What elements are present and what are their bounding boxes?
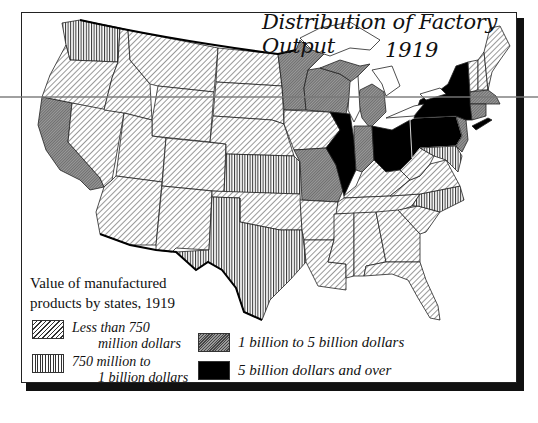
state-arkansas (300, 200, 338, 240)
scan-artifact-line (0, 96, 538, 98)
diagonal-hatch-swatch-icon (32, 320, 64, 339)
state-michigan (358, 84, 386, 128)
state-florida (364, 262, 440, 320)
state-connecticut (470, 104, 486, 120)
legend-label: 1 billion to 5 billion dollars (238, 334, 404, 350)
state-arizona (96, 176, 162, 245)
legend-label: 750 million to 1 billion dollars (72, 354, 188, 386)
state-vermont (468, 60, 478, 92)
legend-item-750m-to-1b: 750 million to 1 billion dollars (32, 354, 188, 386)
legend-heading-line1: Value of manufactured (30, 273, 175, 293)
legend-item-over-5b: 5 billion dollars and over (198, 361, 391, 380)
legend-label: 5 billion dollars and over (238, 362, 391, 378)
legend-label: Less than 750 million dollars (72, 320, 181, 352)
legend-item-under-750m: Less than 750 million dollars (32, 320, 181, 352)
legend-item-1b-to-5b: 1 billion to 5 billion dollars (198, 333, 404, 352)
state-colorado (162, 138, 226, 192)
solid-black-swatch-icon (198, 361, 230, 380)
vertical-hatch-swatch-icon (32, 354, 64, 373)
legend-heading-line2: products by states, 1919 (30, 293, 175, 313)
state-wyoming (152, 86, 214, 142)
map-year: 1919 (385, 38, 438, 62)
long-island (472, 118, 492, 130)
state-kansas (224, 154, 300, 194)
fine-hatch-swatch-icon (198, 333, 230, 352)
legend-heading: Value of manufactured products by states… (30, 273, 175, 313)
state-new-mexico (156, 186, 212, 252)
